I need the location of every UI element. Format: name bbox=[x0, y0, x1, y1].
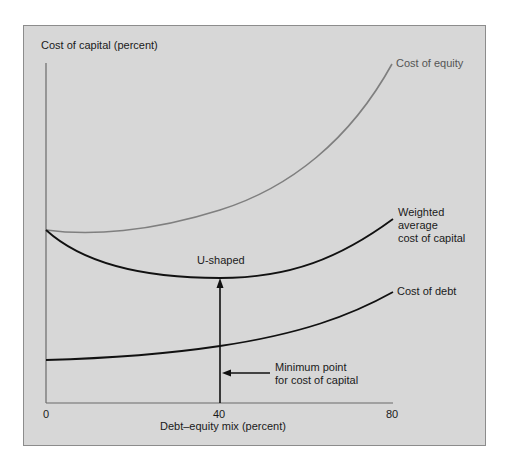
x-tick-80: 80 bbox=[386, 408, 398, 421]
x-axis-label: Debt–equity mix (percent) bbox=[160, 420, 286, 433]
arrow-left-icon bbox=[222, 370, 231, 377]
cost-of-equity-curve bbox=[46, 64, 392, 233]
minimum-label-line2: for cost of capital bbox=[275, 374, 358, 387]
wacc-label-line3: cost of capital bbox=[398, 232, 465, 245]
wacc-label-line2: average bbox=[398, 219, 438, 232]
arrow-up-icon bbox=[217, 278, 224, 288]
y-axis-label: Cost of capital (percent) bbox=[41, 39, 158, 52]
x-tick-0: 0 bbox=[43, 408, 49, 421]
equity-label: Cost of equity bbox=[396, 57, 463, 70]
debt-label: Cost of debt bbox=[397, 285, 456, 298]
wacc-curve bbox=[46, 219, 393, 278]
minimum-label-line1: Minimum point bbox=[275, 361, 347, 374]
u-shaped-label: U-shaped bbox=[197, 254, 245, 267]
wacc-label-line1: Weighted bbox=[398, 206, 444, 219]
